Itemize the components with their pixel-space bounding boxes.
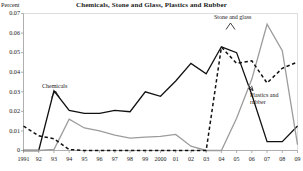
annotation-plastics-line1: Plastics and [250, 92, 279, 98]
annotation-chemicals: Chemicals [42, 83, 67, 90]
annotation-plastics-and-rubber: Plastics and rubber [250, 92, 279, 105]
stone-and-glass-leader-arrow [226, 23, 235, 30]
annotation-leader-lines [52, 23, 254, 98]
annotation-plastics-line2: rubber [250, 99, 266, 105]
axis-lines [24, 14, 298, 151]
chart-figure: Chemicals, Stone and Glass, Plastics and… [0, 0, 303, 171]
annotation-stone-and-glass: Stone and glass [214, 14, 251, 21]
